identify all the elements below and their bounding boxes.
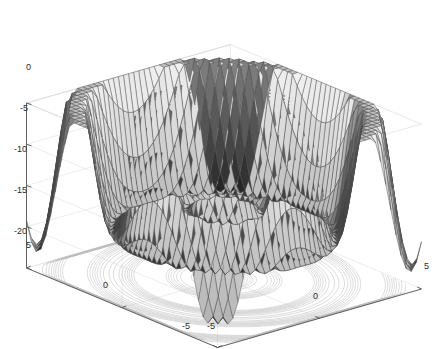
x-tick-label-0: -5 [207,322,215,331]
y-tick-label-1: 0 [103,281,108,290]
y-tick-label-2: -5 [182,322,190,331]
surface-plot-svg [0,0,444,349]
x-tick-mark-2 [417,287,421,289]
z-tick-label-1: -5 [20,104,28,113]
figure-canvas: 0-5-10-15-20 50-5 -505 [0,0,444,349]
surface-mesh [27,58,422,324]
y-tick-label-0: 5 [26,241,31,250]
x-tick-label-2: 5 [424,262,429,271]
z-tick-label-0: 0 [26,63,31,72]
z-tick-label-2: -10 [14,145,27,154]
z-tick-label-4: -20 [14,227,27,236]
z-tick-label-3: -15 [14,186,27,195]
x-tick-label-1: 0 [313,292,318,301]
